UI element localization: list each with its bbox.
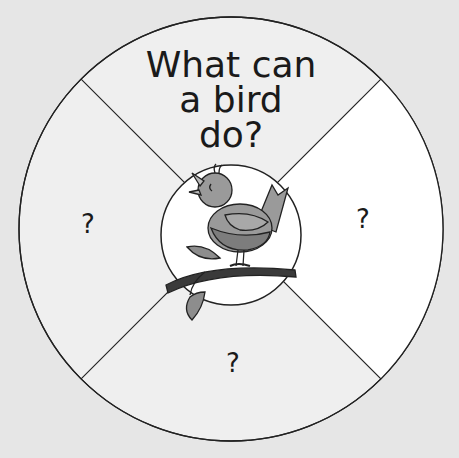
bird-graphic-organizer: What can a bird do? ? ? ? [0, 0, 459, 458]
left-question: ? [81, 209, 95, 239]
title-line-3: do? [199, 114, 263, 155]
bottom-question: ? [226, 348, 240, 378]
right-question: ? [356, 204, 370, 234]
